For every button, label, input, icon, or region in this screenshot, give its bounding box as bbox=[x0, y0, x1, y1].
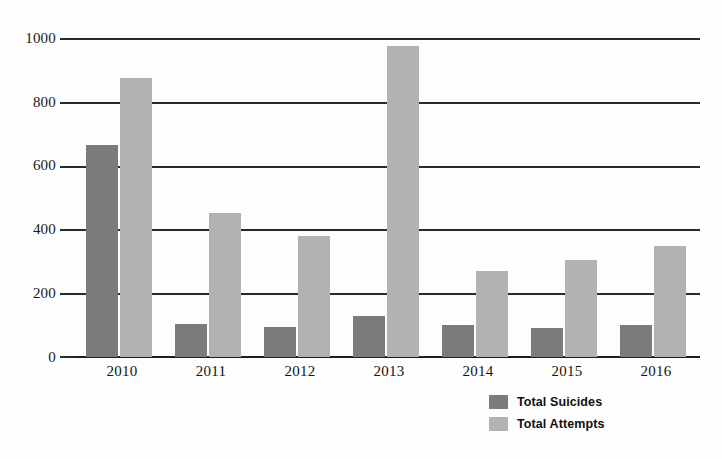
bar-total-attempts-2015 bbox=[565, 260, 597, 357]
y-axis-label-0: 0 bbox=[48, 349, 56, 366]
y-axis-label-800: 800 bbox=[33, 94, 56, 111]
x-axis-label-2011: 2011 bbox=[175, 363, 247, 380]
bar-group-2013 bbox=[353, 38, 425, 357]
legend-label-total-suicides: Total Suicides bbox=[517, 395, 602, 409]
y-axis-tick-1000 bbox=[60, 38, 74, 40]
bar-total-attempts-2011 bbox=[209, 213, 241, 357]
legend-label-total-attempts: Total Attempts bbox=[517, 417, 605, 431]
y-axis-tick-0 bbox=[60, 356, 74, 358]
y-axis-tick-600 bbox=[60, 166, 74, 168]
x-axis-label-2012: 2012 bbox=[264, 363, 336, 380]
bar-total-suicides-2012 bbox=[264, 327, 296, 357]
bar-total-suicides-2013 bbox=[353, 316, 385, 357]
legend-swatch-total-suicides-icon bbox=[489, 395, 508, 409]
bar-total-suicides-2015 bbox=[531, 328, 563, 357]
bar-total-attempts-2016 bbox=[654, 246, 686, 357]
x-axis-label-2014: 2014 bbox=[442, 363, 514, 380]
x-axis-label-2010: 2010 bbox=[86, 363, 158, 380]
bar-group-2016 bbox=[620, 38, 692, 357]
bar-group-2015 bbox=[531, 38, 603, 357]
x-axis-label-2013: 2013 bbox=[353, 363, 425, 380]
legend-item-total-suicides: Total Suicides bbox=[489, 392, 605, 412]
y-axis-label-600: 600 bbox=[33, 157, 56, 174]
bar-group-2010 bbox=[86, 38, 158, 357]
bar-total-attempts-2010 bbox=[120, 78, 152, 357]
bar-chart: 1000 800 600 400 200 0 bbox=[0, 0, 722, 459]
bar-total-attempts-2012 bbox=[298, 236, 330, 357]
bar-total-suicides-2016 bbox=[620, 325, 652, 357]
bar-total-suicides-2014 bbox=[442, 325, 474, 357]
bar-group-2012 bbox=[264, 38, 336, 357]
x-axis-label-2016: 2016 bbox=[620, 363, 692, 380]
bar-total-attempts-2014 bbox=[476, 271, 508, 357]
legend-swatch-total-attempts-icon bbox=[489, 417, 508, 431]
y-axis-label-200: 200 bbox=[33, 285, 56, 302]
y-axis-tick-800 bbox=[60, 102, 74, 104]
legend-item-total-attempts: Total Attempts bbox=[489, 414, 605, 434]
bar-group-2014 bbox=[442, 38, 514, 357]
plot-area bbox=[74, 38, 700, 357]
bar-total-attempts-2013 bbox=[387, 46, 419, 357]
bar-total-suicides-2010 bbox=[86, 145, 118, 357]
y-axis-tick-400 bbox=[60, 229, 74, 231]
bar-group-2011 bbox=[175, 38, 247, 357]
y-axis-label-1000: 1000 bbox=[25, 30, 56, 47]
bar-total-suicides-2011 bbox=[175, 324, 207, 357]
y-axis-tick-200 bbox=[60, 293, 74, 295]
y-axis-label-400: 400 bbox=[33, 221, 56, 238]
chart-legend: Total Suicides Total Attempts bbox=[489, 392, 605, 436]
x-axis-label-2015: 2015 bbox=[531, 363, 603, 380]
